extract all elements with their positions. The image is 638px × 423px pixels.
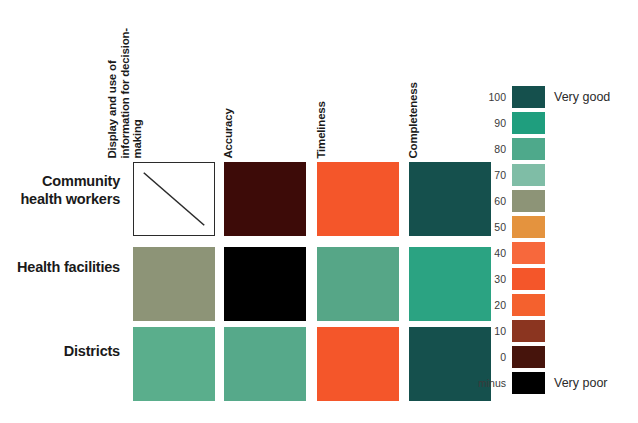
legend-tick-label: 20 bbox=[470, 299, 512, 311]
legend-swatch bbox=[512, 138, 545, 160]
column-header-accuracy: Accuracy bbox=[224, 18, 306, 160]
legend-row: 40 bbox=[470, 240, 638, 265]
heatmap-cell-na[interactable] bbox=[133, 162, 215, 236]
legend-swatch bbox=[512, 346, 545, 368]
legend-row: 30 bbox=[470, 266, 638, 291]
legend-tick-label: minus bbox=[470, 377, 512, 389]
heatmap-cell[interactable] bbox=[133, 247, 215, 321]
legend-row: 20 bbox=[470, 292, 638, 317]
color-scale-legend: 100 Very good 90 80 70 60 50 bbox=[470, 84, 638, 396]
row-label-community-health-workers: Community health workers bbox=[0, 172, 120, 208]
heatmap-cell[interactable] bbox=[317, 247, 399, 321]
legend-swatch bbox=[512, 294, 545, 316]
column-header-display-and-use: Display and use of information for decis… bbox=[133, 18, 215, 160]
legend-swatch bbox=[512, 164, 545, 186]
legend-tick-label: 30 bbox=[470, 273, 512, 285]
legend-swatch bbox=[512, 190, 545, 212]
legend-row: 50 bbox=[470, 214, 638, 239]
legend-row: minus Very poor bbox=[470, 370, 638, 395]
legend-row: 90 bbox=[470, 110, 638, 135]
column-header-label: Accuracy bbox=[222, 108, 235, 158]
heatmap-cell[interactable] bbox=[317, 327, 399, 401]
legend-row: 0 bbox=[470, 344, 638, 369]
heatmap-cell[interactable] bbox=[224, 247, 306, 321]
legend-row: 100 Very good bbox=[470, 84, 638, 109]
row-label-health-facilities: Health facilities bbox=[0, 258, 120, 276]
column-header-label: Timeliness bbox=[315, 101, 328, 158]
legend-tick-label: 70 bbox=[470, 169, 512, 181]
legend-tick-label: 100 bbox=[470, 91, 512, 103]
heatmap-figure: Display and use of information for decis… bbox=[0, 0, 638, 423]
legend-swatch bbox=[512, 372, 545, 394]
legend-swatch bbox=[512, 268, 545, 290]
legend-swatch bbox=[512, 112, 545, 134]
legend-swatch bbox=[512, 86, 545, 108]
legend-tick-label: 0 bbox=[470, 351, 512, 363]
heatmap-cell[interactable] bbox=[224, 162, 306, 236]
legend-tick-label: 50 bbox=[470, 221, 512, 233]
heatmap-cell[interactable] bbox=[224, 327, 306, 401]
heatmap-cell[interactable] bbox=[133, 327, 215, 401]
row-label-group: Community health workers Health faciliti… bbox=[0, 162, 128, 394]
row-label-districts: Districts bbox=[0, 342, 120, 360]
diagonal-line-icon bbox=[134, 163, 214, 235]
column-header-group: Display and use of information for decis… bbox=[133, 18, 473, 160]
legend-swatch bbox=[512, 320, 545, 342]
legend-row: 80 bbox=[470, 136, 638, 161]
legend-tick-label: 80 bbox=[470, 143, 512, 155]
heatmap-cell[interactable] bbox=[317, 162, 399, 236]
legend-row: 10 bbox=[470, 318, 638, 343]
legend-tick-label: 90 bbox=[470, 117, 512, 129]
legend-tick-label: 40 bbox=[470, 247, 512, 259]
legend-row: 70 bbox=[470, 162, 638, 187]
column-header-label: Display and use of information for decis… bbox=[106, 22, 144, 158]
legend-tick-label: 60 bbox=[470, 195, 512, 207]
legend-row: 60 bbox=[470, 188, 638, 213]
column-header-label: Completeness bbox=[407, 82, 420, 158]
legend-caption-very-poor: Very poor bbox=[545, 376, 608, 390]
legend-swatch bbox=[512, 216, 545, 238]
legend-swatch bbox=[512, 242, 545, 264]
heatmap-grid bbox=[133, 162, 476, 394]
legend-caption-very-good: Very good bbox=[545, 90, 610, 104]
column-header-timeliness: Timeliness bbox=[317, 18, 399, 160]
legend-tick-label: 10 bbox=[470, 325, 512, 337]
